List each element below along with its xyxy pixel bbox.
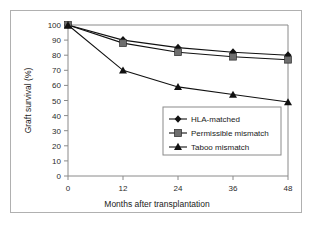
legend-label: Taboo mismatch <box>191 143 249 152</box>
legend-label: Permissible mismatch <box>191 129 269 138</box>
y-tick-label: 100 <box>48 21 62 30</box>
series-permissible-mismatch <box>65 22 292 64</box>
x-axis-ticks: 0 12 24 36 48 <box>66 176 293 193</box>
square-marker-icon <box>230 53 237 60</box>
x-tick-label: 12 <box>119 184 128 193</box>
x-tick-label: 48 <box>284 184 293 193</box>
figure-frame: 0 10 20 30 40 50 60 70 80 90 1 <box>10 10 302 213</box>
x-tick-label: 24 <box>174 184 183 193</box>
square-marker-icon <box>175 49 182 56</box>
y-tick-label: 20 <box>52 142 61 151</box>
y-tick-label: 80 <box>52 51 61 60</box>
x-tick-label: 0 <box>66 184 71 193</box>
chart-svg: 0 10 20 30 40 50 60 70 80 90 1 <box>11 11 303 214</box>
square-marker-icon <box>285 56 292 63</box>
legend-label: HLA-matched <box>191 115 240 124</box>
graft-survival-chart: 0 10 20 30 40 50 60 70 80 90 1 <box>11 11 303 214</box>
series-line <box>68 25 288 102</box>
square-marker-icon <box>120 40 127 47</box>
y-axis-title: Graft survival (%) <box>23 68 33 134</box>
y-axis-ticks: 0 10 20 30 40 50 60 70 80 90 1 <box>48 21 68 181</box>
y-tick-label: 50 <box>52 97 61 106</box>
y-tick-label: 60 <box>52 81 61 90</box>
y-tick-label: 70 <box>52 66 61 75</box>
x-axis-title: Months after transplantation <box>104 199 210 209</box>
y-tick-label: 10 <box>52 157 61 166</box>
y-tick-label: 30 <box>52 127 61 136</box>
square-marker-icon <box>174 129 181 136</box>
series-layer <box>64 21 292 105</box>
y-tick-label: 0 <box>57 172 62 181</box>
y-tick-label: 40 <box>52 112 61 121</box>
y-tick-label: 90 <box>52 36 61 45</box>
x-tick-label: 36 <box>229 184 238 193</box>
chart-legend: HLA-matched Permissible mismatch Taboo m… <box>163 107 281 155</box>
